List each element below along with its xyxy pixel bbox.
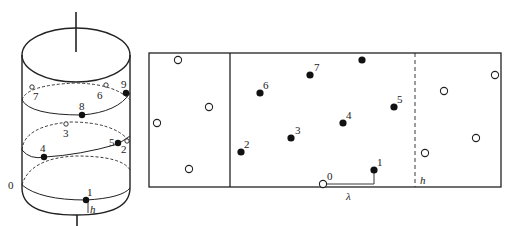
lattice-label-6: 6 [263, 79, 269, 91]
lattice-label-7: 7 [314, 61, 320, 73]
cylinder-labels: 0 1 h 2 3 4 5 6 7 8 9 [8, 78, 127, 215]
lattice-point-7 [306, 71, 313, 78]
cyl-label-4: 4 [40, 142, 46, 154]
cyl-label-7: 7 [33, 90, 39, 102]
right-open-point [421, 149, 428, 156]
left-open-point [174, 56, 181, 63]
lattice-point-8 [358, 56, 365, 63]
left-open-point [153, 119, 160, 126]
right-open-point [491, 71, 498, 78]
lattice-label-zero: 0 [327, 170, 333, 182]
cyl-label-5: 5 [109, 136, 115, 148]
lattice-label-lambda: λ [345, 190, 351, 202]
lattice-label-3: 3 [295, 124, 301, 136]
helix-lattice-figure: 0 1 h 2 3 4 5 6 7 8 9 [0, 0, 516, 226]
lattice-point-3 [287, 134, 294, 141]
cyl-point-9 [123, 90, 129, 96]
lattice-frame [149, 53, 501, 187]
cyl-label-zero: 0 [8, 179, 14, 191]
cyl-label-h: h [90, 203, 96, 215]
right-copy-points [421, 71, 498, 156]
lattice-label-4: 4 [346, 109, 352, 121]
left-open-point [205, 103, 212, 110]
right-open-point [440, 87, 447, 94]
cyl-label-1: 1 [87, 186, 93, 198]
cyl-label-9: 9 [121, 78, 127, 90]
cylinder-bottom-arc [22, 188, 130, 215]
cyl-label-6: 6 [97, 89, 103, 101]
right-open-point [472, 134, 479, 141]
center-points [237, 56, 397, 173]
left-copy-points [153, 56, 212, 172]
lattice-label-1: 1 [377, 156, 383, 168]
cylinder-diagram [22, 12, 130, 226]
lattice-label-5: 5 [397, 93, 403, 105]
unrolled-lattice [149, 53, 501, 187]
cyl-point-4 [41, 154, 47, 160]
left-open-point [185, 165, 192, 172]
helix-back-0 [22, 156, 130, 185]
lattice-labels: 0 1 2 3 4 5 6 7 λ h [244, 61, 426, 202]
cyl-label-2: 2 [121, 143, 127, 155]
cyl-label-8: 8 [79, 100, 85, 112]
cyl-point-3 [64, 122, 68, 126]
helix-front-0 [22, 185, 130, 200]
cyl-label-3: 3 [63, 127, 69, 139]
cyl-point-8 [79, 112, 85, 118]
lattice-label-h: h [420, 174, 426, 186]
lattice-origin-point [319, 180, 326, 187]
cyl-point-7 [30, 85, 34, 89]
cyl-point-6 [104, 83, 108, 87]
lattice-label-2: 2 [244, 138, 250, 150]
